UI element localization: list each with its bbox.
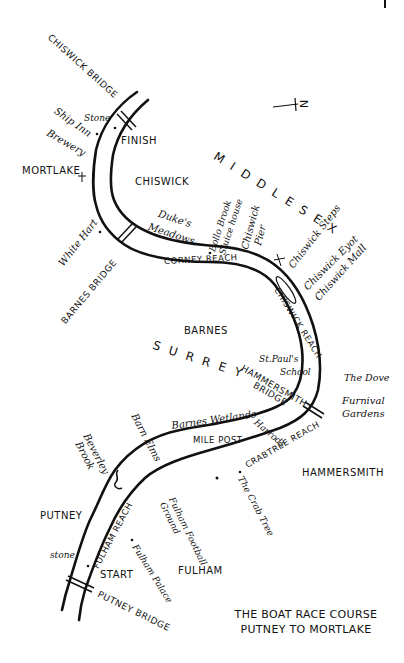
district-putney: PUTNEY: [40, 511, 82, 521]
compass-north-arrow: [273, 98, 298, 111]
beverley-brook-stream: [115, 470, 122, 489]
map-title-line2: PUTNEY TO MORTLAKE: [228, 623, 384, 638]
mile-post-dot: [216, 477, 219, 480]
district-fulham: FULHAM: [178, 566, 223, 576]
district-barnes: BARNES: [184, 326, 228, 336]
white-hart-dot: [99, 231, 102, 234]
map-title-line1: THE BOAT RACE COURSE: [228, 608, 384, 623]
label-st-pauls-1: St.Paul's: [259, 355, 298, 364]
compass-north-label: N: [299, 100, 310, 108]
fulham-palace-dot: [131, 539, 134, 542]
start-stone-dot: [87, 565, 90, 568]
label-start-stone: stone: [50, 551, 75, 560]
label-finish-stone: Stone: [84, 114, 110, 123]
finish-stone-dot: [114, 127, 117, 130]
label-mile-post: MILE POST: [193, 436, 243, 445]
label-furnival-1: Furnival: [342, 396, 385, 406]
map-title: THE BOAT RACE COURSE PUTNEY TO MORTLAKE: [228, 608, 384, 638]
ship-inn-dot: [96, 133, 99, 136]
label-st-pauls-2: School: [280, 368, 311, 377]
label-furnival-2: Gardens: [342, 409, 385, 419]
label-finish: FINISH: [121, 136, 157, 146]
district-hammersmith: HAMMERSMITH: [302, 468, 384, 478]
district-mortlake: MORTLAKE: [22, 166, 80, 176]
label-start: START: [100, 570, 133, 580]
district-chiswick: CHISWICK: [135, 177, 189, 187]
crab-tree-dot: [239, 471, 242, 474]
label-the-dove: The Dove: [344, 373, 389, 383]
